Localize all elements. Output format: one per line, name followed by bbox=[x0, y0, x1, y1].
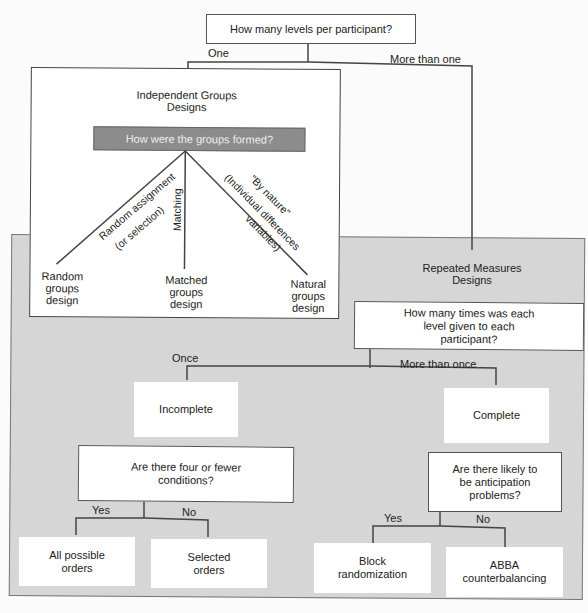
complete-box: Complete bbox=[444, 388, 549, 443]
no-label-left: No bbox=[182, 506, 196, 518]
root-question: How many levels per participant? bbox=[230, 23, 392, 36]
yes-label-left: Yes bbox=[92, 504, 110, 516]
branch-more-label: More than one bbox=[390, 53, 461, 65]
random-groups-design: Random groups design bbox=[32, 270, 92, 306]
independent-groups-panel: Independent Groups Designs How were the … bbox=[29, 67, 341, 319]
four-conditions-question-box: Are there four or fewer conditions? bbox=[78, 445, 294, 503]
no-label-right: No bbox=[476, 513, 490, 525]
branch-more-than-once-label: More than once bbox=[400, 358, 476, 370]
anticipation-question-box: Are there likely to be anticipation prob… bbox=[428, 452, 562, 512]
matched-groups-design: Matched groups design bbox=[155, 274, 217, 310]
yes-label-right: Yes bbox=[384, 512, 402, 524]
times-question-box: How many times was each level given to e… bbox=[354, 301, 584, 351]
block-randomization-box: Block randomization bbox=[314, 543, 431, 593]
branch-one-label: One bbox=[208, 47, 229, 59]
selected-orders-box: Selected orders bbox=[151, 539, 267, 588]
abba-counterbalancing-box: ABBA counterbalancing bbox=[446, 547, 563, 597]
branch-once-label: Once bbox=[172, 352, 198, 364]
root-question-box: How many levels per participant? bbox=[206, 14, 416, 44]
repeated-title: Repeated Measures Designs bbox=[412, 262, 532, 286]
all-possible-orders-box: All possible orders bbox=[19, 537, 135, 586]
natural-groups-design: Natural groups design bbox=[280, 278, 336, 314]
incomplete-box: Incomplete bbox=[134, 382, 238, 437]
matching-branch-label: Matching bbox=[171, 188, 183, 231]
